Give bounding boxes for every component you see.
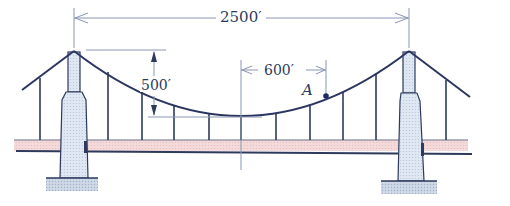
offset-label: 600′ — [264, 63, 294, 77]
left-backstay — [22, 51, 74, 90]
right-tower — [381, 52, 437, 194]
point-a-label: A — [302, 83, 313, 98]
bridge-drawing — [0, 0, 510, 206]
sag-arrow-up — [151, 51, 157, 62]
hangers — [40, 72, 446, 140]
span-label: 2500′ — [216, 10, 266, 25]
bridge-diagram: 2500′ 500′ 600′ A — [0, 0, 510, 206]
left-tower — [46, 52, 98, 191]
point-a-marker — [323, 93, 329, 99]
sag-label: 500′ — [140, 78, 172, 92]
right-backstay — [409, 51, 470, 97]
sag-arrow-down — [151, 105, 157, 116]
